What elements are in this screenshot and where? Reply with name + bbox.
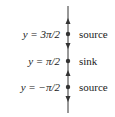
- arrow-up-icon: [66, 70, 71, 76]
- classification-label-source: source: [79, 28, 108, 40]
- equilibrium-dot-neg-pi-2: [66, 85, 70, 89]
- classification-label-source: source: [79, 81, 108, 93]
- equation-label-3pi-2: y = 3π/2: [23, 28, 60, 40]
- equation-label-pi-2: y = π/2: [28, 55, 60, 67]
- equilibrium-dot-pi-2: [66, 59, 70, 63]
- arrow-down-icon: [66, 96, 71, 102]
- classification-label-sink: sink: [79, 55, 97, 67]
- equilibrium-dot-3pi-2: [66, 32, 70, 36]
- equation-label-neg-pi-2: y = −π/2: [21, 81, 60, 93]
- arrow-up-icon: [66, 18, 71, 24]
- arrow-down-icon: [66, 43, 71, 49]
